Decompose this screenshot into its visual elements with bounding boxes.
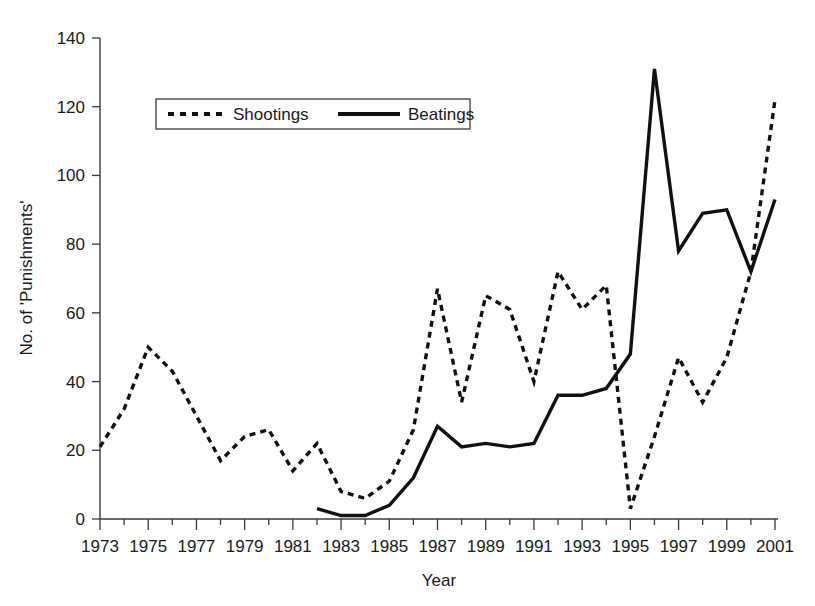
series-line-shootings (100, 100, 775, 509)
y-axis-tick-labels: 020406080100120140 (57, 29, 85, 529)
x-axis-title: Year (422, 571, 457, 590)
chart-figure: 020406080100120140 197319751977197919811… (0, 0, 815, 606)
series-layer (100, 69, 775, 516)
x-axis-ticks (100, 519, 775, 530)
y-axis-ticks (92, 38, 100, 519)
y-tick-label-100: 100 (57, 166, 85, 185)
y-axis-title: No. of 'Punishments' (17, 201, 36, 356)
y-tick-label-80: 80 (66, 235, 85, 254)
chart-legend: Shootings Beatings (156, 99, 474, 129)
y-tick-label-40: 40 (66, 373, 85, 392)
x-tick-label-1983: 1983 (322, 537, 360, 556)
y-tick-label-120: 120 (57, 98, 85, 117)
x-axis-tick-labels: 1973197519771979198119831985198719891991… (81, 537, 794, 556)
line-chart: 020406080100120140 197319751977197919811… (0, 0, 815, 606)
x-tick-label-1999: 1999 (708, 537, 746, 556)
series-line-beatings (317, 69, 775, 516)
y-tick-label-20: 20 (66, 441, 85, 460)
x-tick-label-1981: 1981 (274, 537, 312, 556)
y-tick-label-60: 60 (66, 304, 85, 323)
x-tick-label-1973: 1973 (81, 537, 119, 556)
x-tick-label-1977: 1977 (178, 537, 216, 556)
x-tick-label-1979: 1979 (226, 537, 264, 556)
legend-label-beatings: Beatings (408, 105, 474, 124)
x-tick-label-1987: 1987 (419, 537, 457, 556)
x-tick-label-1975: 1975 (129, 537, 167, 556)
x-tick-label-1989: 1989 (467, 537, 505, 556)
y-tick-label-0: 0 (76, 510, 85, 529)
y-tick-label-140: 140 (57, 29, 85, 48)
x-tick-label-1993: 1993 (563, 537, 601, 556)
x-tick-label-1991: 1991 (515, 537, 553, 556)
legend-label-shootings: Shootings (233, 105, 309, 124)
x-tick-label-2001: 2001 (756, 537, 794, 556)
x-tick-label-1995: 1995 (611, 537, 649, 556)
x-tick-label-1997: 1997 (660, 537, 698, 556)
x-tick-label-1985: 1985 (370, 537, 408, 556)
